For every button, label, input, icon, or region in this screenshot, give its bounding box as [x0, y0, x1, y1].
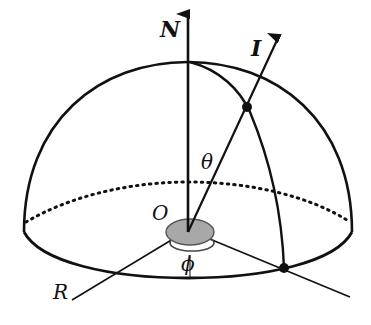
hemisphere-diagram: N I θ O ϕ R [0, 0, 371, 325]
label-r: R [53, 282, 68, 302]
vector-intersection-point [242, 102, 252, 112]
label-n: N [160, 18, 180, 40]
diagram-graphics [0, 0, 371, 325]
base-intersection-point [279, 263, 289, 273]
label-theta: θ [201, 152, 213, 172]
origin-disk [166, 219, 214, 245]
label-phi: ϕ [181, 254, 195, 274]
label-o: O [152, 203, 168, 223]
label-i: I [251, 37, 261, 59]
